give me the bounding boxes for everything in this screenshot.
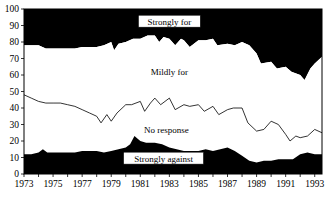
x-tick-label: 1989 xyxy=(247,179,266,189)
x-tick-label: 1981 xyxy=(131,179,150,189)
area-bands xyxy=(24,9,322,174)
series-label-strongly-against: Strongly against xyxy=(134,154,193,164)
series-label-no-response: No response xyxy=(144,125,189,135)
x-tick-label: 1987 xyxy=(218,179,237,189)
y-tick-label: 0 xyxy=(14,169,19,179)
x-tick-label: 1985 xyxy=(189,179,208,189)
chart-canvas: 0102030405060708090100 19731975197719791… xyxy=(0,0,329,198)
series-label-strongly-for: Strongly for xyxy=(147,17,191,27)
y-tick-label: 60 xyxy=(10,70,20,80)
x-tick-label: 1993 xyxy=(305,179,324,189)
stacked-area-chart: 0102030405060708090100 19731975197719791… xyxy=(0,0,329,198)
x-tick-label: 1977 xyxy=(73,179,92,189)
y-tick-label: 30 xyxy=(10,120,20,130)
x-tick-label: 1973 xyxy=(15,179,34,189)
y-tick-label: 50 xyxy=(10,87,20,97)
x-tick-label: 1979 xyxy=(102,179,121,189)
y-tick-label: 80 xyxy=(10,37,20,47)
x-tick-label: 1983 xyxy=(160,179,179,189)
y-tick-label: 70 xyxy=(10,54,20,64)
y-tick-label: 10 xyxy=(10,153,20,163)
y-tick-label: 20 xyxy=(10,136,20,146)
series-label-mildly-for: Mildly for xyxy=(151,67,188,77)
x-axis-ticks: 1973197519771979198119831985198719891991… xyxy=(15,174,325,189)
x-tick-label: 1975 xyxy=(44,179,63,189)
x-tick-label: 1991 xyxy=(276,179,295,189)
y-tick-label: 40 xyxy=(10,103,20,113)
y-axis-ticks: 0102030405060708090100 xyxy=(5,4,24,179)
y-tick-label: 100 xyxy=(5,4,20,14)
y-tick-label: 90 xyxy=(10,21,20,31)
